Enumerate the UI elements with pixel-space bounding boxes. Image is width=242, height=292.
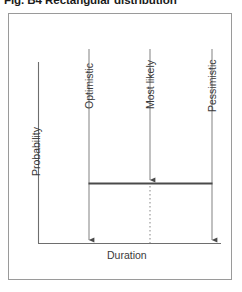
marker-label-pessimistic: Pessimistic bbox=[207, 59, 218, 112]
figure-page: Fig. B4 Rectangular distribution Probabi… bbox=[0, 0, 242, 292]
y-axis-label: Probability bbox=[31, 127, 42, 176]
marker-label-most-likely: Most likely bbox=[145, 60, 156, 109]
x-axis-label: Duration bbox=[107, 250, 147, 261]
marker-label-optimistic: Optimistic bbox=[84, 63, 95, 109]
